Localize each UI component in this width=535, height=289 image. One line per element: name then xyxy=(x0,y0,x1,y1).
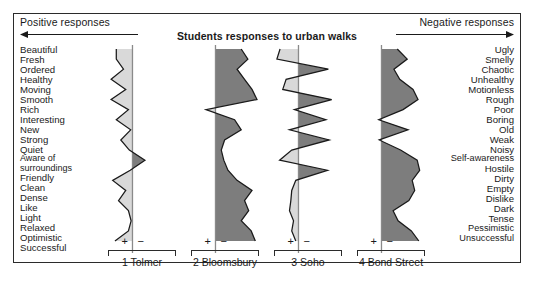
negative-label-3: Unhealthy xyxy=(428,75,514,85)
minus-sign-2: − xyxy=(220,236,226,247)
panel-axis-row: 1 Tolmer2 Bloomsbury3 Soho4 Bond Street xyxy=(108,250,426,270)
positive-area-1 xyxy=(111,49,145,241)
positive-label-16: Light xyxy=(20,213,106,223)
positive-label-5: Smooth xyxy=(20,95,106,105)
profile-plot-3 xyxy=(274,45,342,253)
panel-name-1: 1 Tolmer xyxy=(98,256,186,268)
profile-plot-4 xyxy=(357,45,425,253)
negative-label-7: Boring xyxy=(428,115,514,125)
positive-label-11: Aware ofsurroundings xyxy=(20,154,106,172)
negative-label-5: Rough xyxy=(428,95,514,105)
positive-label-7: Interesting xyxy=(20,115,106,125)
positive-label-6: Rich xyxy=(20,105,106,115)
panel-name-2: 2 Bloomsbury xyxy=(181,256,269,268)
positive-label-8: New xyxy=(20,125,106,135)
plus-sign-3: + xyxy=(287,236,293,247)
negative-label-19: Unsuccessful xyxy=(428,234,514,244)
negative-area-3 xyxy=(277,49,332,241)
figure-frame: Positive responses Students responses to… xyxy=(13,13,521,263)
plus-sign-4: + xyxy=(370,236,376,247)
negative-label-column: UglySmellyChaoticUnhealthyMotionlessRoug… xyxy=(428,45,514,245)
positive-label-9: Strong xyxy=(20,135,106,145)
negative-area-2 xyxy=(206,49,257,241)
positive-label-column: BeautifulFreshOrderedHealthyMovingSmooth… xyxy=(20,45,106,245)
profile-panel-2: +− xyxy=(191,45,259,253)
positive-responses-header: Positive responses xyxy=(20,16,110,28)
minus-sign-3: − xyxy=(303,236,309,247)
negative-responses-header: Negative responses xyxy=(419,16,514,28)
positive-label-17: Relaxed xyxy=(20,223,106,233)
positive-label-18: Optimistic xyxy=(20,233,106,243)
arrow-left-icon xyxy=(20,30,138,39)
minus-sign-1: − xyxy=(137,236,143,247)
positive-label-15: Like xyxy=(20,203,106,213)
figure-header: Positive responses Students responses to… xyxy=(14,14,520,44)
panel-name-3: 3 Soho xyxy=(264,256,352,268)
profile-panel-4: +− xyxy=(357,45,425,253)
negative-label-9: Weak xyxy=(428,135,514,145)
positive-label-3: Healthy xyxy=(20,75,106,85)
panel-name-4: 4 Bond Street xyxy=(347,256,435,268)
positive-label-19: Successful xyxy=(20,243,106,253)
profile-panel-1: +− xyxy=(108,45,176,253)
profile-plot-2 xyxy=(191,45,259,253)
plus-sign-1: + xyxy=(121,236,127,247)
plus-sign-2: + xyxy=(204,236,210,247)
profile-plot-1 xyxy=(108,45,176,253)
negative-label-8: Old xyxy=(428,125,514,135)
arrow-right-icon xyxy=(396,30,514,39)
profile-panel-3: +− xyxy=(274,45,342,253)
negative-label-6: Poor xyxy=(428,105,514,115)
negative-label-4: Motionless xyxy=(428,85,514,95)
positive-label-4: Moving xyxy=(20,85,106,95)
minus-sign-4: − xyxy=(386,236,392,247)
profile-panels: +−+−+−+− xyxy=(108,45,426,253)
